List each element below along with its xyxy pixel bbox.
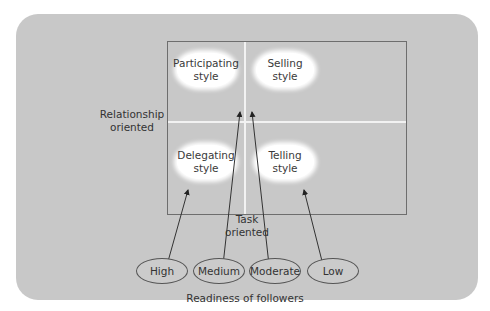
readiness-moderate: Moderate [249, 258, 301, 284]
arrows [0, 0, 490, 311]
arrow-low [304, 190, 323, 265]
arrow-moderate [252, 112, 269, 265]
readiness-high: High [136, 258, 188, 284]
readiness-medium: Medium [193, 258, 245, 284]
caption-readiness: Readiness of followers [180, 292, 310, 305]
readiness-low: Low [307, 258, 359, 284]
arrow-high [167, 190, 188, 265]
arrow-medium [223, 112, 240, 265]
